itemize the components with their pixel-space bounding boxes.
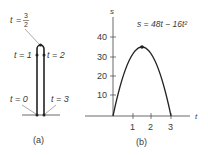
t2-dot <box>43 54 46 57</box>
t0-leader-line <box>22 105 36 114</box>
y-tick-label-40: 40 <box>97 32 107 42</box>
peak-leader-line <box>25 29 39 44</box>
x-axis-label: t <box>195 112 198 121</box>
peak-label-eq: = <box>16 15 21 25</box>
caption-b: (b) <box>136 137 147 147</box>
t1-label: t = 1 <box>14 50 32 60</box>
peak-dot <box>39 44 42 47</box>
x-tick-label-3: 3 <box>168 122 173 132</box>
x-tick-label-2: 2 <box>148 122 153 132</box>
caption-a: (a) <box>33 135 44 145</box>
y-tick-label-30: 30 <box>97 52 107 62</box>
x-tick-label-1: 1 <box>130 122 135 132</box>
max-point-dot <box>140 45 144 49</box>
y-tick-label-20: 20 <box>97 71 107 81</box>
figure-a: t = 3 2 t = 1 t = 2 t = 0 t = 3 (a) <box>10 12 69 145</box>
t2-label: t = 2 <box>47 50 65 60</box>
parabola-curve <box>113 47 171 116</box>
y-tick-label-10: 10 <box>97 90 107 100</box>
figure-b: s t 10 20 30 40 1 2 3 s = 48t − 16t² (b) <box>85 7 198 147</box>
t3-label: t = 3 <box>51 94 69 104</box>
peak-label-num: 3 <box>24 12 28 19</box>
t3-leader-line <box>45 105 56 114</box>
equation-label: s = 48t − 16t² <box>137 19 188 29</box>
t0-label: t = 0 <box>10 94 28 104</box>
figure-canvas: t = 3 2 t = 1 t = 2 t = 0 t = 3 (a) s t … <box>0 0 208 155</box>
peak-label-den: 2 <box>24 21 28 28</box>
y-axis-label: s <box>110 7 114 16</box>
peak-label-var: t <box>10 15 13 25</box>
t1-dot <box>36 54 39 57</box>
